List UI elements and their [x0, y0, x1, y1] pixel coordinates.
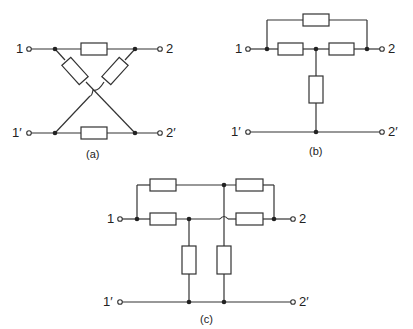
terminal-label-1-c: 1 [107, 212, 114, 225]
terminal-label-2p-b: 2′ [388, 125, 398, 138]
caption-c: (c) [200, 314, 213, 325]
caption-a: (a) [86, 149, 99, 160]
terminal-circles [27, 47, 385, 305]
circuit-drawing [0, 0, 413, 329]
circuit-diagram-figure: 1 2 1′ 2′ (a) 1 2 1′ 2′ (b) 1 2 1′ 2′ (c… [0, 0, 413, 329]
caption-b: (b) [309, 146, 322, 157]
terminal-label-1p-a: 1′ [12, 126, 22, 139]
twin-t-network-c [122, 179, 291, 302]
terminal-label-2p-c: 2′ [299, 295, 309, 308]
terminal-label-2p-a: 2′ [166, 126, 176, 139]
terminal-label-1-b: 1 [235, 42, 242, 55]
terminal-label-2-a: 2 [166, 42, 173, 55]
terminal-label-2-c: 2 [299, 212, 306, 225]
terminal-label-1p-b: 1′ [231, 125, 241, 138]
terminal-label-1-a: 1 [16, 42, 23, 55]
terminal-label-1p-c: 1′ [103, 295, 113, 308]
bridged-t-network-b [250, 14, 380, 132]
lattice-network-a [30, 43, 158, 139]
terminal-label-2-b: 2 [388, 42, 395, 55]
